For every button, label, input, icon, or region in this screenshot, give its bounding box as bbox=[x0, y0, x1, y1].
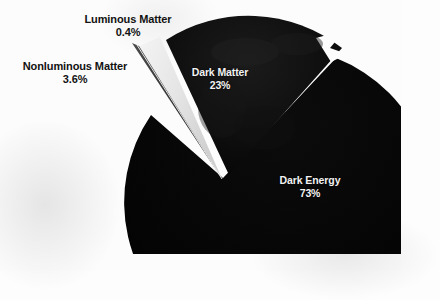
slice-label-dark-matter: Dark Matter 23% bbox=[166, 66, 274, 91]
slice-label-nonluminous-matter-value: 3.6% bbox=[4, 73, 146, 86]
texture-blotch-4 bbox=[235, 106, 295, 150]
slice-label-luminous-matter-value: 0.4% bbox=[62, 26, 194, 39]
slice-label-dark-energy: Dark Energy 73% bbox=[258, 174, 362, 199]
slice-label-dark-energy-value: 73% bbox=[258, 187, 362, 200]
slice-label-dark-matter-name: Dark Matter bbox=[192, 66, 249, 78]
texture-blotch-1 bbox=[211, 38, 279, 66]
slice-label-dark-matter-value: 23% bbox=[166, 79, 274, 92]
slice-label-luminous-matter: Luminous Matter 0.4% bbox=[62, 13, 194, 39]
slice-label-luminous-matter-name: Luminous Matter bbox=[84, 13, 171, 25]
slice-label-nonluminous-matter: Nonluminous Matter 3.6% bbox=[4, 60, 146, 86]
slice-label-dark-energy-name: Dark Energy bbox=[280, 174, 341, 186]
texture-blotch-2 bbox=[271, 33, 323, 55]
slice-label-nonluminous-matter-name: Nonluminous Matter bbox=[23, 60, 128, 72]
